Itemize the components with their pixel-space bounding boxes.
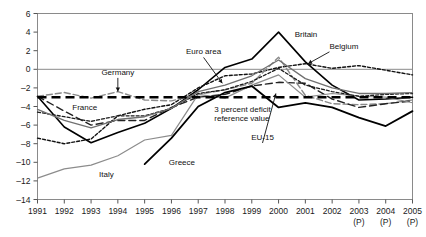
- y-tick-label: –14: [16, 195, 30, 205]
- annotation-italy: Italy: [99, 170, 114, 179]
- y-axis-ticks: 6420–2–4–6–8–10–12–14: [16, 9, 37, 205]
- x-tick-label: 1992: [55, 206, 74, 216]
- x-tick-label: 1997: [189, 206, 208, 216]
- x-tick-label: 1991: [28, 206, 47, 216]
- x-tick-label: 1995: [135, 206, 154, 216]
- x-tick-label: 2001: [296, 206, 315, 216]
- x-tick-label: 1996: [162, 206, 181, 216]
- x-tick-label: 1999: [242, 206, 261, 216]
- x-tick-label: 1998: [216, 206, 235, 216]
- x-tick-sublabel: (P): [380, 217, 392, 227]
- annotation-germany: Germany: [101, 68, 134, 77]
- y-tick-label: 6: [26, 9, 31, 19]
- annotation-britain: Britain: [295, 30, 318, 39]
- x-tick-label: 1993: [82, 206, 101, 216]
- annotation-belgium: Belgium: [329, 42, 358, 51]
- x-tick-sublabel: (P): [353, 217, 365, 227]
- x-tick-label: 2002: [323, 206, 342, 216]
- y-tick-label: 4: [26, 27, 31, 37]
- x-tick-label: 2005: [403, 206, 422, 216]
- budget-deficit-line-chart: 6420–2–4–6–8–10–12–14 199119921993199419…: [0, 0, 426, 237]
- y-tick-label: –8: [21, 139, 31, 149]
- y-tick-label: –12: [16, 176, 30, 186]
- x-tick-label: 1994: [108, 206, 127, 216]
- annotation-reference-line-label-2: reference value: [214, 114, 270, 123]
- x-tick-label: 2004: [376, 206, 395, 216]
- annotation-greece: Greece: [169, 158, 196, 167]
- x-tick-label: 2000: [269, 206, 288, 216]
- y-tick-label: –6: [21, 120, 31, 130]
- x-axis-ticks: 1991199219931994199519961997199819992000…: [28, 200, 422, 227]
- y-tick-label: –10: [16, 157, 30, 167]
- y-tick-label: –4: [21, 102, 31, 112]
- y-tick-label: 2: [26, 46, 31, 56]
- y-tick-label: 0: [26, 64, 31, 74]
- x-tick-label: 2003: [349, 206, 368, 216]
- annotation-reference-line-label-1: 3 percent deficit: [214, 105, 271, 114]
- chart-container: 6420–2–4–6–8–10–12–14 199119921993199419…: [0, 0, 426, 237]
- annotation-france: France: [72, 103, 97, 112]
- x-tick-sublabel: (P): [407, 217, 419, 227]
- annotation-euro-area: Euro area: [186, 47, 222, 56]
- y-tick-label: –2: [21, 83, 31, 93]
